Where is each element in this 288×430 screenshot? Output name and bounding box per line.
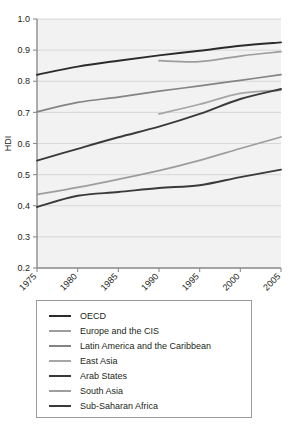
y-tick-label: 0.4 bbox=[17, 201, 30, 211]
legend-box: OECD Europe and the CIS Latin America an… bbox=[36, 300, 252, 418]
legend-item-label: Sub-Saharan Africa bbox=[80, 401, 158, 411]
x-tick-label: 2000 bbox=[221, 271, 242, 292]
y-tick-label: 1.0 bbox=[17, 14, 30, 24]
legend-item-arab-states: Arab States bbox=[37, 368, 251, 383]
legend-item-label: South Asia bbox=[80, 386, 123, 396]
y-tick-label: 0.6 bbox=[17, 139, 30, 149]
x-tick-label: 2005 bbox=[261, 271, 282, 292]
x-tick-label: 1975 bbox=[17, 271, 38, 292]
y-tick-label: 0.2 bbox=[17, 263, 30, 273]
legend-swatch-icon bbox=[49, 360, 71, 362]
legend-item-east-asia: East Asia bbox=[37, 353, 251, 368]
legend-swatch-icon bbox=[49, 315, 71, 317]
y-tick-group: 0.20.30.40.50.60.70.80.91.0 bbox=[17, 14, 37, 273]
hdi-line-chart: 0.20.30.40.50.60.70.80.91.0 197519801985… bbox=[0, 0, 288, 292]
legend-swatch-icon bbox=[49, 390, 71, 392]
legend-item-europe-and-the-cis: Europe and the CIS bbox=[37, 323, 251, 338]
y-tick-label: 0.7 bbox=[17, 108, 30, 118]
hdi-trend-figure: 0.20.30.40.50.60.70.80.91.0 197519801985… bbox=[0, 0, 288, 430]
chart-area: 0.20.30.40.50.60.70.80.91.0 197519801985… bbox=[0, 0, 288, 292]
legend-item-label: Latin America and the Caribbean bbox=[80, 341, 211, 351]
legend-item-label: Europe and the CIS bbox=[80, 326, 159, 336]
y-tick-label: 0.3 bbox=[17, 232, 30, 242]
legend-list: OECD Europe and the CIS Latin America an… bbox=[37, 301, 251, 413]
y-axis-title: HDI bbox=[3, 136, 13, 152]
legend-item-label: Arab States bbox=[80, 371, 127, 381]
legend-item-sub-saharan-africa: Sub-Saharan Africa bbox=[37, 398, 251, 413]
y-tick-label: 0.5 bbox=[17, 170, 30, 180]
legend-item-label: East Asia bbox=[80, 356, 118, 366]
legend-item-south-asia: South Asia bbox=[37, 383, 251, 398]
x-tick-label: 1985 bbox=[99, 271, 120, 292]
legend-swatch-icon bbox=[49, 330, 71, 332]
legend-swatch-icon bbox=[49, 345, 71, 347]
x-tick-group: 1975198019851990199520002005 bbox=[17, 268, 282, 292]
x-tick-label: 1980 bbox=[58, 271, 79, 292]
y-tick-label: 0.8 bbox=[17, 76, 30, 86]
x-tick-label: 1995 bbox=[180, 271, 201, 292]
x-tick-label: 1990 bbox=[139, 271, 160, 292]
legend-item-label: OECD bbox=[80, 311, 106, 321]
legend-swatch-icon bbox=[49, 405, 71, 407]
legend-item-latin-america-and-the-caribbean: Latin America and the Caribbean bbox=[37, 338, 251, 353]
legend-swatch-icon bbox=[49, 375, 71, 377]
y-axis-title-group: HDI bbox=[3, 136, 13, 152]
y-tick-label: 0.9 bbox=[17, 45, 30, 55]
legend-item-oecd: OECD bbox=[37, 308, 251, 323]
